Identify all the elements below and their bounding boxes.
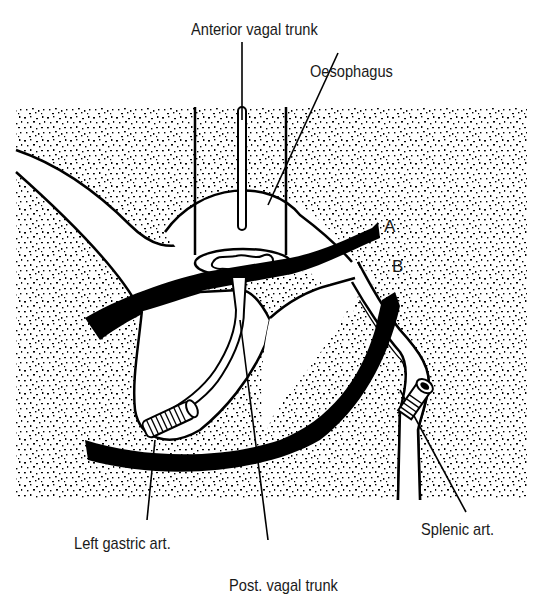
label-splenic-art: Splenic art. [421, 521, 494, 538]
label-left-gastric-art: Left gastric art. [74, 535, 171, 552]
marker-b: B [392, 258, 403, 275]
label-anterior-vagal-trunk: Anterior vagal trunk [191, 21, 318, 38]
anterior-vagal-trunk [238, 107, 246, 230]
label-oesophagus: Oesophagus [310, 63, 393, 80]
stipple-field [16, 107, 527, 499]
marker-a: A [384, 218, 395, 235]
label-post-vagal-trunk: Post. vagal trunk [229, 577, 338, 594]
anatomy-diagram [0, 0, 542, 608]
